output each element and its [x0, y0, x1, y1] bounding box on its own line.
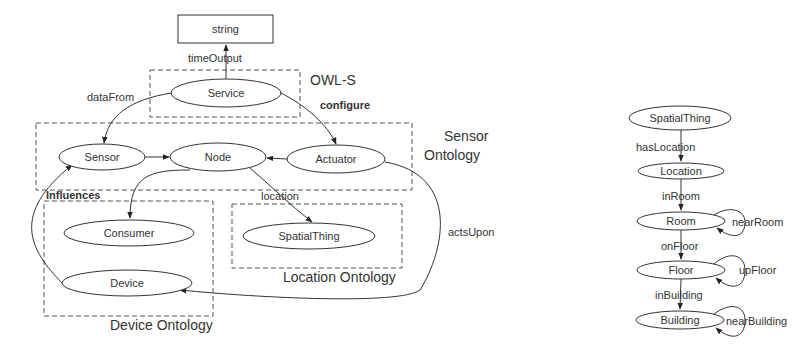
edge-label-location: location — [261, 190, 299, 202]
edge-label-up-floor: upFloor — [739, 264, 777, 276]
node-string: string — [178, 15, 273, 43]
edge-influences — [32, 165, 72, 283]
node-device: Device — [62, 270, 192, 296]
node-room: Room — [637, 212, 725, 230]
svg-text:Service: Service — [208, 87, 245, 99]
node-service: Service — [171, 79, 281, 107]
edge-label-configure: configure — [320, 99, 370, 111]
sensor-ontology-label-line1: Sensor — [444, 128, 489, 144]
location-ontology-label: Location Ontology — [283, 269, 396, 285]
svg-text:SpatialThing: SpatialThing — [278, 230, 339, 242]
edge-actuator-node — [267, 158, 287, 159]
edge-label-on-floor: onFloor — [661, 240, 699, 252]
svg-text:Actuator: Actuator — [316, 153, 357, 165]
edge-label-time-output: timeOutput — [188, 52, 242, 64]
sensor-ontology-label-line2: Ontology — [424, 147, 480, 163]
node-location: Location — [638, 163, 724, 179]
edge-label-has-location: hasLocation — [636, 141, 695, 153]
edge-node-consumer — [130, 170, 190, 218]
edge-label-near-room: nearRoom — [732, 216, 783, 228]
ontology-diagram: OWL-S Sensor Ontology Device Ontology Lo… — [0, 0, 793, 361]
svg-text:Building: Building — [660, 314, 699, 326]
node-sensor: Sensor — [59, 144, 145, 170]
node-building: Building — [636, 311, 724, 329]
edge-label-acts-upon: actsUpon — [448, 226, 494, 238]
edge-label-in-room: inRoom — [662, 190, 700, 202]
svg-text:string: string — [212, 23, 239, 35]
edge-label-in-building: inBuilding — [655, 289, 703, 301]
svg-text:Node: Node — [205, 151, 231, 163]
svg-text:Device: Device — [110, 277, 144, 289]
node-spatialthing-right: SpatialThing — [629, 106, 731, 130]
edge-label-influences: Influences — [46, 189, 100, 201]
node-node: Node — [170, 143, 266, 171]
owls-group-label: OWL-S — [310, 72, 356, 88]
svg-text:Room: Room — [666, 215, 695, 227]
svg-text:Floor: Floor — [668, 264, 693, 276]
svg-text:SpatialThing: SpatialThing — [649, 112, 710, 124]
svg-text:Location: Location — [660, 165, 702, 177]
svg-text:Sensor: Sensor — [85, 151, 120, 163]
edge-label-data-from: dataFrom — [87, 91, 134, 103]
edge-label-near-building: nearBuilding — [726, 315, 787, 327]
device-ontology-label: Device Ontology — [110, 317, 213, 333]
node-consumer: Consumer — [64, 220, 194, 246]
node-spatialthing-left: SpatialThing — [243, 223, 375, 249]
node-floor: Floor — [637, 261, 725, 279]
svg-text:Consumer: Consumer — [104, 227, 155, 239]
node-actuator: Actuator — [287, 145, 385, 173]
